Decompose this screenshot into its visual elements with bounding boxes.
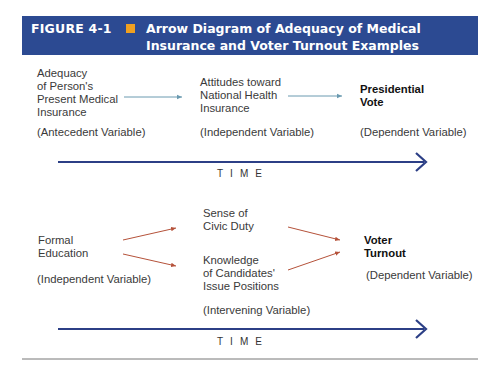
turnout-line: Turnout (364, 247, 406, 260)
dependent-node: Presidential Vote (360, 83, 424, 109)
knowledge-line: Issue Positions (203, 280, 279, 293)
antecedent-line: Insurance (37, 106, 118, 119)
dependent-line: Vote (360, 96, 424, 109)
knowledge-line: Knowledge (203, 254, 279, 267)
time-label-1: TIME (217, 168, 269, 179)
education-line: Education (38, 247, 88, 260)
time-label-2: TIME (217, 336, 269, 347)
dependent-line: Presidential (360, 83, 424, 96)
antecedent-role: (Antecedent Variable) (37, 126, 145, 139)
turnout-line: Voter (364, 234, 406, 247)
civic-duty-line: Civic Duty (203, 220, 254, 233)
antecedent-line: Present Medical (37, 93, 118, 106)
independent-line: Attitudes toward (200, 76, 281, 89)
independent-role: (Independent Variable) (200, 126, 314, 139)
turnout-role: (Dependent Variable) (366, 269, 473, 282)
education-role: (Independent Variable) (37, 273, 151, 286)
civic-duty-line: Sense of (203, 207, 254, 220)
independent-line: Insurance (200, 102, 281, 115)
arrow-education-to-civic-duty (123, 228, 176, 240)
diagram-arrows (0, 0, 501, 373)
knowledge-node: Knowledge of Candidates' Issue Positions (203, 254, 279, 293)
antecedent-line: Adequacy (37, 67, 118, 80)
antecedent-node: Adequacy of Person's Present Medical Ins… (37, 67, 118, 119)
education-node: Formal Education (38, 234, 88, 260)
civic-duty-node: Sense of Civic Duty (203, 207, 254, 233)
education-line: Formal (38, 234, 88, 247)
independent-node: Attitudes toward National Health Insuran… (200, 76, 281, 115)
dependent-role: (Dependent Variable) (360, 126, 467, 139)
independent-line: National Health (200, 89, 281, 102)
arrow-civic-duty-to-turnout (288, 227, 340, 240)
arrow-education-to-knowledge (123, 254, 176, 266)
intervening-role: (Intervening Variable) (203, 304, 310, 317)
arrow-knowledge-to-turnout (288, 252, 340, 270)
turnout-node: Voter Turnout (364, 234, 406, 260)
antecedent-line: of Person's (37, 80, 118, 93)
knowledge-line: of Candidates' (203, 267, 279, 280)
